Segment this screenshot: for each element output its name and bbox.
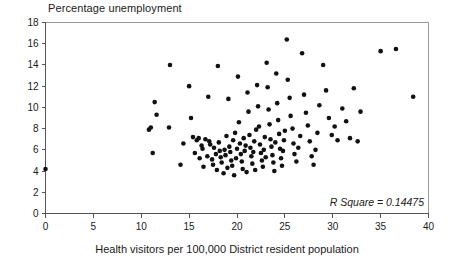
svg-text:2: 2 xyxy=(33,187,39,198)
axis-ticks xyxy=(42,23,429,218)
svg-text:14: 14 xyxy=(27,59,39,70)
svg-text:5: 5 xyxy=(91,221,97,232)
svg-text:20: 20 xyxy=(231,221,243,232)
svg-text:10: 10 xyxy=(136,221,148,232)
svg-text:8: 8 xyxy=(33,123,39,134)
svg-text:35: 35 xyxy=(375,221,387,232)
x-axis-title: Health visitors per 100,000 District res… xyxy=(0,243,454,255)
data-points xyxy=(43,37,415,177)
svg-text:30: 30 xyxy=(327,221,339,232)
scatter-plot-figure: Percentage unemployment 0510152025303540… xyxy=(0,0,454,265)
svg-text:6: 6 xyxy=(33,144,39,155)
svg-text:25: 25 xyxy=(279,221,291,232)
plot-frame xyxy=(46,23,429,214)
svg-text:15: 15 xyxy=(184,221,196,232)
svg-text:4: 4 xyxy=(33,166,39,177)
svg-text:40: 40 xyxy=(423,221,435,232)
svg-text:12: 12 xyxy=(27,81,39,92)
r-square-annotation: R Square = 0.14475 xyxy=(330,196,424,208)
svg-text:0: 0 xyxy=(43,221,49,232)
svg-text:16: 16 xyxy=(27,38,39,49)
svg-text:0: 0 xyxy=(33,208,39,219)
svg-text:18: 18 xyxy=(27,17,39,28)
plot-canvas: 0510152025303540024681012141618 R Square… xyxy=(0,0,454,265)
svg-text:10: 10 xyxy=(27,102,39,113)
